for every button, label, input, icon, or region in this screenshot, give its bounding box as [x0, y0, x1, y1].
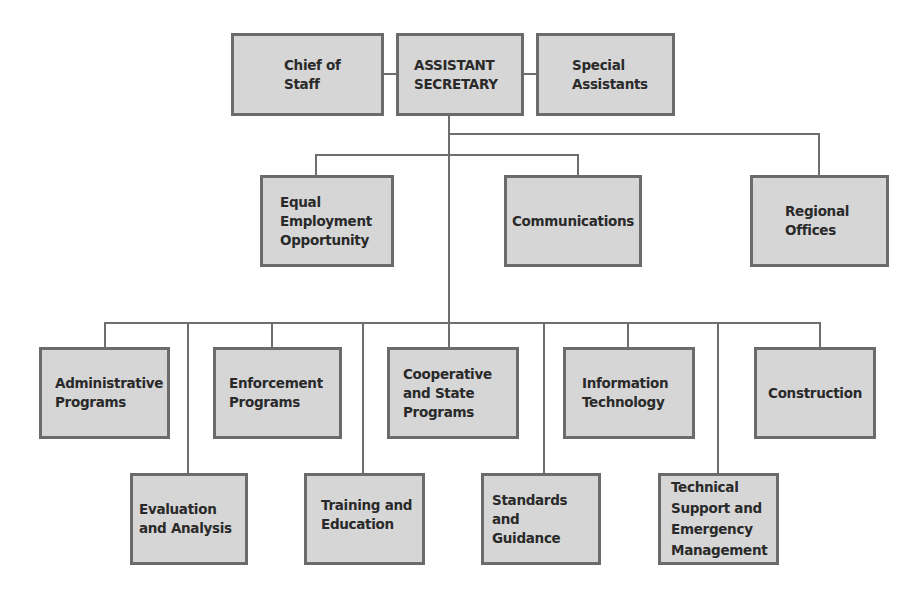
- label-information-technology: Information Technology: [566, 374, 674, 412]
- box-construction: Construction: [754, 347, 876, 439]
- connector-level2-bus: [104, 322, 821, 324]
- label-evaluation-analysis: Evaluation and Analysis: [133, 500, 238, 538]
- connector-main-trunk: [448, 116, 450, 323]
- connector-level1-bus: [315, 154, 579, 156]
- connector-technical-drop: [717, 322, 719, 473]
- label-construction: Construction: [768, 384, 862, 403]
- box-eeo: Equal Employment Opportunity: [260, 175, 394, 267]
- box-enforcement-programs: Enforcement Programs: [213, 347, 342, 439]
- label-administrative-programs: Administrative Programs: [42, 374, 169, 412]
- connector-enforcement-drop: [271, 322, 273, 347]
- box-training-education: Training and Education: [304, 473, 425, 565]
- label-standards-guidance: Standards and Guidance: [484, 491, 598, 548]
- label-regional-offices: Regional Offices: [753, 202, 855, 240]
- connector-evaluation-drop: [187, 322, 189, 473]
- box-communications: Communications: [504, 175, 642, 267]
- box-standards-guidance: Standards and Guidance: [481, 473, 601, 565]
- label-technical-support-emergency-management: Technical Support and Emergency Manageme…: [661, 477, 773, 561]
- label-special-assistants: Special Assistants: [539, 56, 654, 94]
- connector-admin-drop: [104, 322, 106, 347]
- box-chief-of-staff: Chief of Staff: [231, 33, 384, 116]
- box-cooperative-state-programs: Cooperative and State Programs: [387, 347, 519, 439]
- label-eeo: Equal Employment Opportunity: [263, 193, 378, 250]
- connector-secretary-to-special: [524, 73, 536, 75]
- connector-regional-branch: [449, 133, 819, 135]
- box-evaluation-analysis: Evaluation and Analysis: [130, 473, 248, 565]
- org-chart: Chief of Staff ASSISTANT SECRETARY Speci…: [0, 0, 922, 595]
- label-assistant-secretary: ASSISTANT SECRETARY: [399, 56, 504, 94]
- connector-cooperative-drop: [448, 322, 450, 347]
- label-cooperative-state-programs: Cooperative and State Programs: [390, 365, 498, 422]
- box-technical-support-emergency-management: Technical Support and Emergency Manageme…: [658, 473, 779, 565]
- box-assistant-secretary: ASSISTANT SECRETARY: [396, 33, 524, 116]
- connector-chief-to-secretary: [384, 73, 396, 75]
- label-enforcement-programs: Enforcement Programs: [216, 374, 329, 412]
- label-chief-of-staff: Chief of Staff: [234, 56, 347, 94]
- connector-standards-drop: [543, 322, 545, 473]
- box-special-assistants: Special Assistants: [536, 33, 675, 116]
- label-communications: Communications: [512, 212, 634, 231]
- box-administrative-programs: Administrative Programs: [39, 347, 170, 439]
- connector-it-drop: [627, 322, 629, 347]
- connector-regional-drop: [818, 133, 820, 175]
- connector-training-drop: [362, 322, 364, 473]
- connector-construction-drop: [819, 322, 821, 347]
- connector-eeo-drop: [315, 154, 317, 175]
- label-training-education: Training and Education: [307, 496, 418, 534]
- box-information-technology: Information Technology: [563, 347, 695, 439]
- connector-communications-drop: [577, 154, 579, 175]
- box-regional-offices: Regional Offices: [750, 175, 889, 267]
